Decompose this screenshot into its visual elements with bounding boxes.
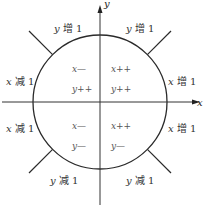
- label-text: 增 1: [132, 23, 155, 34]
- label-text: 增 1: [174, 123, 197, 134]
- q2-op-x: x—: [72, 64, 86, 74]
- label-text: 减 1: [12, 76, 35, 87]
- x-axis-label: x: [197, 97, 203, 108]
- label-right-upper: x 增 1: [168, 76, 196, 87]
- diagonal-tick-bottom-left: [29, 149, 53, 173]
- label-text: 减 1: [12, 123, 35, 134]
- label-top-left: y 增 1: [54, 23, 82, 34]
- y-axis-arrow-icon: [98, 5, 103, 13]
- y-axis-label: y: [104, 0, 110, 9]
- label-left-lower: x 减 1: [6, 123, 34, 134]
- label-text: 增 1: [60, 23, 83, 34]
- q4-op-x: x++: [111, 121, 131, 131]
- label-text: 增 1: [174, 76, 197, 87]
- q2-op-y: y++: [72, 84, 92, 94]
- diagonal-tick-bottom-right: [147, 149, 171, 173]
- label-bottom-right: y 减 1: [126, 175, 154, 186]
- diagonal-tick-top-right: [147, 31, 171, 55]
- label-right-lower: x 增 1: [168, 123, 196, 134]
- label-text: 减 1: [132, 175, 155, 186]
- q3-op-y: y—: [72, 141, 86, 151]
- q1-op-x: x++: [111, 64, 131, 74]
- q4-op-y: y—: [111, 141, 125, 151]
- diagram-canvas: [0, 0, 204, 205]
- label-left-upper: x 减 1: [6, 76, 34, 87]
- label-bottom-left: y 减 1: [50, 175, 78, 186]
- label-text: 减 1: [56, 175, 79, 186]
- diagonal-tick-top-left: [29, 31, 53, 55]
- label-top-right: y 增 1: [126, 23, 154, 34]
- q3-op-x: x—: [72, 121, 86, 131]
- q1-op-y: y++: [111, 84, 131, 94]
